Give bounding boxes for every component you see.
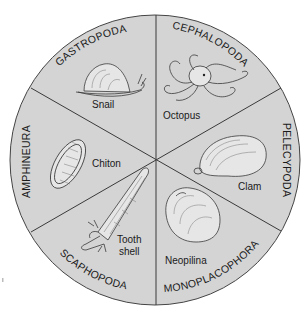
example-label-tooth-shell-line1: Tooth xyxy=(117,234,141,245)
example-label-chiton: Chiton xyxy=(92,158,121,169)
mollusca-class-wheel: GASTROPODA Snail CEPHALOPODA Octopus xyxy=(0,0,305,315)
example-label-snail: Snail xyxy=(92,99,114,110)
example-label-clam: Clam xyxy=(238,181,261,192)
example-label-tooth-shell-line2: shell xyxy=(119,246,140,257)
example-label-octopus: Octopus xyxy=(163,110,200,121)
example-label-neopilina: Neopilina xyxy=(165,255,207,266)
class-label-amphineura: AMPHINEURA xyxy=(20,125,32,198)
class-label-pelecypoda: PELECYPODA xyxy=(281,123,293,197)
scan-artifact xyxy=(2,278,4,282)
